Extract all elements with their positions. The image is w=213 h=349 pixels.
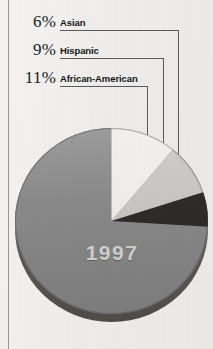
label-asian: 6% Asian [0,10,213,36]
leader-line-african-american-horizontal [60,86,148,87]
label-african-american: 11% African-American [0,66,213,92]
leader-line-hispanic-horizontal [60,58,164,59]
label-hispanic-percent: 9% [22,40,56,60]
label-asian-name: Asian [60,17,85,28]
pie-chart: 1997 [13,126,211,326]
pie-face [15,128,208,314]
label-african-american-name: African-American [60,73,138,84]
label-hispanic-name: Hispanic [60,45,99,56]
label-african-american-percent: 11% [13,68,56,88]
label-asian-percent: 6% [22,12,56,32]
label-hispanic: 9% Hispanic [0,38,213,64]
leader-line-asian-horizontal [60,30,179,31]
